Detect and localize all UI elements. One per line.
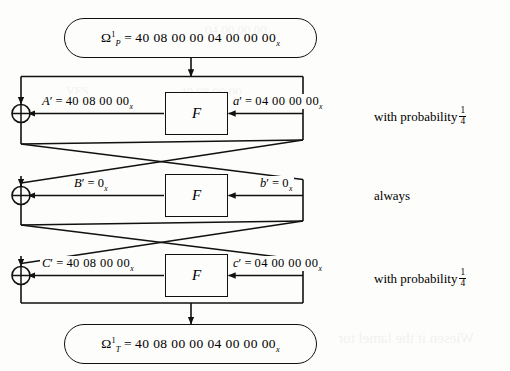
f-box-label: F [192,105,201,122]
omega-subscript: T [116,345,121,354]
omega-superscript: 1 [111,336,115,345]
round1-left-label: A′ = 40 08 00 00x [40,94,135,109]
equals-sign: = [124,30,132,45]
output-hex-value: 40 08 00 00 04 00 00 00 [135,336,276,351]
f-box-round2[interactable]: F [165,174,228,217]
f-box-round1[interactable]: F [165,92,228,135]
omega-symbol: Ω [101,336,111,351]
f-box-round3[interactable]: F [165,254,228,297]
round3-probability-note: with probability14 [372,268,468,288]
round2-probability-note: always [372,188,412,204]
output-oval: Ω1T = 40 08 00 00 04 00 00 00x [64,324,317,364]
xor-node-round1 [12,105,30,123]
figure-canvas: Wiesen it the lamel tor 04 00 00 00 40 0… [0,0,510,371]
f-box-label: F [192,267,201,284]
xor-node-round2 [12,187,30,205]
xor-node-round3 [12,267,30,285]
input-oval: Ω1P = 40 08 00 00 04 00 00 00x [64,18,317,58]
hex-subscript: x [276,39,280,48]
omega-symbol: Ω [101,30,111,45]
output-oval-label: Ω1T = 40 08 00 00 04 00 00 00x [101,336,280,352]
f-box-label: F [192,187,201,204]
round2-bottom-rail [21,221,303,225]
round3-right-label: c′ = 04 00 00 00x [231,256,324,271]
input-hex-value: 40 08 00 00 04 00 00 00 [135,30,276,45]
input-oval-label: Ω1P = 40 08 00 00 04 00 00 00x [101,30,280,46]
round1-bottom-rail [21,140,303,144]
round1-right-label: a′ = 04 00 00 00x [231,94,325,109]
omega-superscript: 1 [111,30,115,39]
round2-right-label: b′ = 0x [258,176,294,191]
round3-left-label: C′ = 40 08 00 00x [40,256,136,271]
hex-subscript: x [276,345,280,354]
round1-probability-note: with probability14 [372,106,468,126]
equals-sign: = [124,336,132,351]
round2-left-label: B′ = 0x [72,176,110,191]
omega-subscript: P [115,39,120,48]
